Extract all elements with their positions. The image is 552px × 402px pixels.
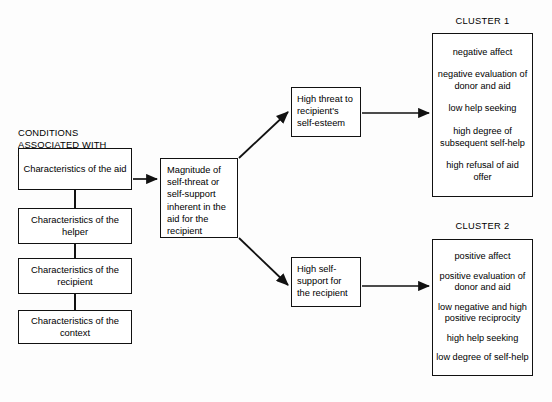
cluster-item: negative evaluation of donor and aid (436, 69, 529, 92)
cluster-item: low negative and high positive reciproci… (436, 302, 529, 325)
cluster-item: negative affect (436, 47, 529, 59)
condition-label: Characteristics of the recipient (23, 264, 127, 288)
condition-box-helper: Characteristics of the helper (18, 208, 132, 244)
connector-recipient-context (74, 294, 76, 310)
condition-label: Characteristics of the context (23, 315, 127, 339)
center-box-label: Magnitude of self-threat or self-support… (167, 165, 226, 236)
stage-label: High self-support for the recipient (297, 264, 348, 298)
cluster-item: high degree of subsequent self-help (436, 126, 529, 149)
cluster-item: low degree of self-help (436, 352, 529, 364)
condition-box-context: Characteristics of the context (18, 310, 132, 344)
cluster-item: positive affect (436, 251, 529, 263)
arrow-center-to-support (239, 238, 288, 285)
cluster-2-title: CLUSTER 2 (432, 221, 533, 231)
stage-box-high-threat: High threat to recipient's self-esteem (291, 87, 361, 137)
arrow-center-to-threat (239, 112, 288, 158)
cluster-item: high refusal of aid offer (436, 160, 529, 183)
connector-helper-recipient (74, 244, 76, 258)
cluster-1-title: CLUSTER 1 (432, 16, 533, 26)
cluster-2-box: positive affect positive evaluation of d… (432, 239, 533, 376)
cluster-item: positive evaluation of donor and aid (436, 271, 529, 294)
diagram-canvas: CONDITIONS ASSOCIATED WITH THE RECEIPT O… (0, 0, 552, 402)
cluster-item: high help seeking (436, 333, 529, 345)
connector-aid-helper (74, 190, 76, 208)
stage-label: High threat to recipient's self-esteem (297, 94, 353, 128)
stage-box-high-self-support: High self-support for the recipient (291, 257, 361, 307)
condition-box-aid: Characteristics of the aid (18, 148, 132, 190)
center-box-magnitude: Magnitude of self-threat or self-support… (160, 158, 238, 238)
cluster-item: low help seeking (436, 103, 529, 115)
condition-box-recipient: Characteristics of the recipient (18, 258, 132, 294)
cluster-1-box: negative affect negative evaluation of d… (432, 33, 533, 197)
condition-label: Characteristics of the helper (23, 214, 127, 238)
condition-label: Characteristics of the aid (23, 163, 126, 175)
